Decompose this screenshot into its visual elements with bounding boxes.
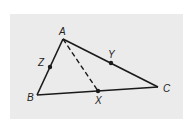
point-z [48, 65, 52, 69]
point-x [96, 89, 100, 93]
label-y: Y [108, 49, 116, 60]
point-y [109, 61, 113, 65]
label-x: X [94, 95, 102, 106]
label-b: B [27, 92, 34, 103]
label-z: Z [37, 57, 45, 68]
label-a: A [58, 26, 66, 37]
label-c: C [163, 83, 171, 94]
segment-ax-dashed [63, 39, 98, 91]
triangle-diagram: A B C Z Y X [0, 0, 188, 125]
